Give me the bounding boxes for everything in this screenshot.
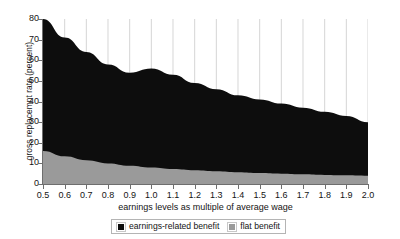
- y-axis-tick-label: 20: [21, 138, 39, 147]
- y-axis-tick-mark: [38, 19, 42, 20]
- y-axis-tick-labels: 01020304050607080: [18, 0, 39, 239]
- legend-label: flat benefit: [240, 222, 280, 231]
- x-axis-tick-mark: [303, 185, 304, 189]
- x-axis-tick-mark: [325, 185, 326, 189]
- x-axis-tick-mark: [86, 185, 87, 189]
- x-axis-tick-mark: [195, 185, 196, 189]
- x-axis-tick-mark: [43, 185, 44, 189]
- y-axis-tick-label: 60: [21, 55, 39, 64]
- legend-item-earnings-related-benefit: earnings-related benefit: [117, 222, 219, 231]
- y-axis-tick-mark: [38, 184, 42, 185]
- y-axis-tick-mark: [38, 163, 42, 164]
- y-axis-tick-mark: [38, 102, 42, 103]
- plot-area: [43, 19, 368, 184]
- area-earnings-related-benefit: [43, 19, 368, 184]
- y-axis-tick-label: 30: [21, 117, 39, 126]
- x-axis-tick-mark: [173, 185, 174, 189]
- x-axis-tick-mark: [130, 185, 131, 189]
- y-axis-tick-mark: [38, 40, 42, 41]
- y-axis-tick-label: 70: [21, 35, 39, 44]
- x-axis-line: [42, 184, 369, 185]
- y-axis-tick-label: 80: [21, 14, 39, 23]
- stacked-area-svg: [43, 19, 368, 184]
- chart-figure: gross replacemnt rate (percent) 01020304…: [0, 0, 400, 239]
- legend-label: earnings-related benefit: [129, 222, 219, 231]
- y-axis-tick-mark: [38, 143, 42, 144]
- legend-item-flat-benefit: flat benefit: [228, 222, 280, 231]
- x-axis-tick-mark: [238, 185, 239, 189]
- x-axis-tick-label: 2.0: [355, 190, 381, 200]
- x-axis-tick-mark: [368, 185, 369, 189]
- legend-swatch-icon: [228, 223, 236, 231]
- x-axis-title: earnings levels as multiple of average w…: [43, 202, 368, 212]
- y-axis-tick-label: 0: [21, 179, 39, 188]
- y-axis-tick-label: 10: [21, 158, 39, 167]
- y-axis-tick-label: 40: [21, 97, 39, 106]
- x-axis-tick-mark: [260, 185, 261, 189]
- x-axis-tick-mark: [216, 185, 217, 189]
- y-axis-tick-label: 50: [21, 76, 39, 85]
- x-axis-tick-mark: [65, 185, 66, 189]
- y-axis-tick-mark: [38, 122, 42, 123]
- x-axis-tick-mark: [346, 185, 347, 189]
- chart-legend: earnings-related benefit flat benefit: [111, 219, 286, 234]
- legend-swatch-icon: [117, 223, 125, 231]
- x-axis-tick-mark: [108, 185, 109, 189]
- x-axis-tick-mark: [151, 185, 152, 189]
- x-axis-tick-mark: [281, 185, 282, 189]
- y-axis-tick-mark: [38, 81, 42, 82]
- y-axis-tick-mark: [38, 60, 42, 61]
